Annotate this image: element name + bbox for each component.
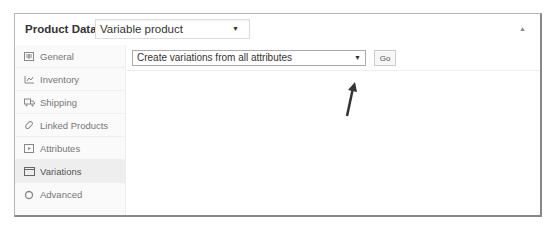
attributes-icon — [23, 143, 35, 153]
tab-label: Shipping — [40, 97, 77, 108]
dropdown-arrow-icon: ▼ — [232, 25, 239, 32]
truck-icon — [23, 97, 35, 107]
window-icon — [23, 166, 35, 176]
tab-variations[interactable]: Variations — [15, 160, 125, 183]
collapse-icon[interactable]: ▲ — [519, 25, 526, 32]
tab-advanced[interactable]: Advanced — [15, 183, 125, 206]
annotation-arrow-icon — [340, 80, 360, 120]
variation-action-value: Create variations from all attributes — [137, 52, 292, 63]
tab-general[interactable]: General — [15, 45, 125, 68]
tab-inventory[interactable]: Inventory — [15, 68, 125, 91]
tab-label: Variations — [40, 166, 82, 177]
panel-header: Product Data — Variable product ▼ ▲ — [15, 14, 540, 46]
product-data-panel: Product Data — Variable product ▼ ▲ Gene… — [14, 13, 542, 217]
inventory-icon — [23, 74, 35, 84]
tab-attributes[interactable]: Attributes — [15, 137, 125, 160]
tab-shipping[interactable]: Shipping — [15, 91, 125, 114]
link-icon — [23, 120, 35, 130]
variations-panel: Create variations from all attributes ▼ … — [126, 45, 540, 215]
product-type-select[interactable]: Variable product ▼ — [95, 19, 250, 39]
product-data-tabs: General Inventory Shipping Linked Produc… — [15, 45, 126, 215]
variations-toolbar: Create variations from all attributes ▼ … — [126, 45, 540, 71]
gear-icon — [23, 190, 35, 200]
tab-label: General — [40, 51, 74, 62]
product-type-value: Variable product — [100, 23, 183, 35]
tab-label: Inventory — [40, 74, 79, 85]
tab-label: Linked Products — [40, 120, 108, 131]
dropdown-arrow-icon: ▼ — [354, 54, 361, 61]
variation-action-select[interactable]: Create variations from all attributes ▼ — [132, 50, 366, 66]
tab-linked-products[interactable]: Linked Products — [15, 114, 125, 137]
go-button[interactable]: Go — [374, 50, 396, 66]
tab-label: Attributes — [40, 143, 80, 154]
grid-icon — [23, 51, 35, 61]
tab-label: Advanced — [40, 189, 82, 200]
